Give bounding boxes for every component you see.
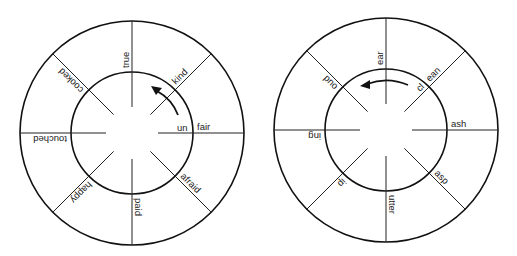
word-wheels-diagram: fairkindtruecookedtouchedhappypaidafraid… <box>0 0 517 256</box>
wheel-word: oud <box>320 74 339 93</box>
spoke <box>53 151 114 212</box>
wheel-word: ean <box>423 64 442 83</box>
right-wheel: asheanearoudingiputterasp cl <box>274 18 498 242</box>
wheel-word: paid <box>133 198 144 216</box>
wheel-word: fair <box>197 121 210 132</box>
spoke <box>307 51 368 112</box>
wheel-word: true <box>120 52 131 68</box>
spokes <box>20 21 244 245</box>
prefix-label: un <box>177 122 188 133</box>
wheel-word: touched <box>33 134 67 145</box>
wheel-word: ash <box>451 118 466 129</box>
spoke <box>150 151 211 212</box>
spoke <box>404 148 465 209</box>
wheel-word: ing <box>308 131 321 142</box>
wheel-word: kind <box>169 66 189 86</box>
spoke <box>307 148 368 209</box>
spoke <box>53 54 114 115</box>
spoke <box>150 54 211 115</box>
spokes <box>274 18 498 242</box>
left-wheel: fairkindtruecookedtouchedhappypaidafraid… <box>20 21 244 245</box>
rotation-arrow-icon <box>360 80 408 89</box>
wheel-word: asp <box>433 167 452 186</box>
wheel-word: cooked <box>56 66 85 95</box>
wheel-word: utter <box>387 195 398 214</box>
spoke <box>404 51 465 112</box>
word-labels: fairkindtruecookedtouchedhappypaidafraid <box>33 52 210 216</box>
wheel-word: ear <box>374 51 385 65</box>
